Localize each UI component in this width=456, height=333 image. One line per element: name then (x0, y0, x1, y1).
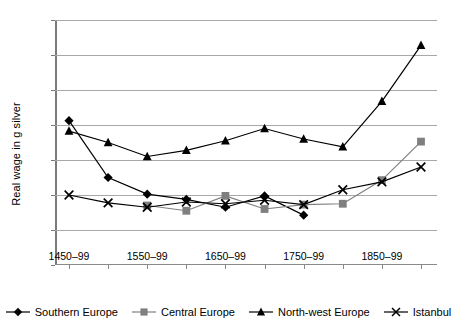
data-point-marker (222, 192, 230, 200)
x-tick-mark (108, 265, 109, 269)
data-point-marker (182, 207, 190, 215)
square-marker-icon (131, 306, 157, 318)
series-north-west-europe (65, 41, 426, 161)
cross-marker-icon (383, 306, 409, 318)
legend-label: North-west Europe (278, 306, 370, 318)
data-point-marker (65, 126, 74, 135)
data-point-marker (417, 138, 425, 146)
x-tick-mark (265, 265, 266, 269)
x-tick-mark (147, 265, 148, 269)
data-point-marker (417, 163, 426, 172)
x-tick-mark (382, 265, 383, 269)
legend-label: Istanbul (413, 306, 452, 318)
data-point-marker (417, 41, 426, 50)
data-point-marker (260, 124, 269, 133)
series-layer (55, 20, 437, 265)
x-tick-mark (343, 265, 344, 269)
diamond-marker-icon (5, 306, 31, 318)
x-tick-label: 1650–99 (205, 250, 246, 262)
x-tick-mark (69, 265, 70, 269)
x-tick-mark (186, 265, 187, 269)
data-point-marker (299, 211, 308, 220)
data-point-marker (339, 200, 347, 208)
data-point-marker (64, 116, 73, 125)
chart-container: Real wage in g silver 02468101214 1450–9… (0, 0, 456, 333)
legend-item[interactable]: Southern Europe (5, 306, 118, 318)
chart-legend: Southern EuropeCentral EuropeNorth-west … (0, 306, 456, 318)
plot-area: 02468101214 (55, 20, 437, 265)
data-point-marker (143, 190, 152, 199)
x-tick-mark (421, 265, 422, 269)
x-tick-label: 1750–99 (283, 250, 324, 262)
legend-label: Southern Europe (35, 306, 118, 318)
x-tick-mark (225, 265, 226, 269)
data-point-marker (104, 173, 113, 182)
legend-label: Central Europe (161, 306, 235, 318)
y-tick-mark (51, 265, 55, 266)
x-tick-label: 1550–99 (127, 250, 168, 262)
x-tick-label: 1450–99 (49, 250, 90, 262)
legend-item[interactable]: Central Europe (131, 306, 235, 318)
x-tick-label: 1850–99 (361, 250, 402, 262)
data-point-marker (261, 205, 269, 213)
x-tick-mark (304, 265, 305, 269)
series-southern-europe (64, 116, 308, 220)
series-line (69, 45, 421, 156)
triangle-marker-icon (248, 306, 274, 318)
y-axis-title: Real wage in g silver (10, 54, 22, 254)
legend-item[interactable]: North-west Europe (248, 306, 370, 318)
legend-item[interactable]: Istanbul (383, 306, 452, 318)
